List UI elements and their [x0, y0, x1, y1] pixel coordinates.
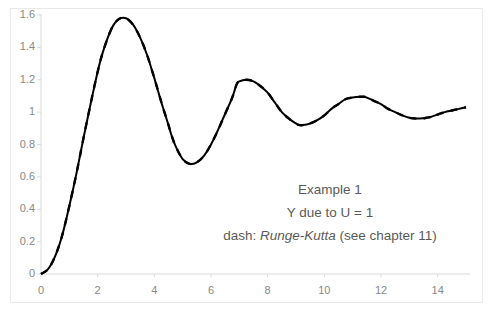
y-axis-tick-label: 1.6: [1, 9, 35, 20]
y-axis-tick-label: 1.2: [1, 74, 35, 85]
x-axis-tick-label: 2: [83, 285, 113, 296]
y-axis-tick-label: 0.2: [1, 236, 35, 247]
y-axis-tick-label: 0.8: [1, 139, 35, 150]
chart-figure: 00.20.40.60.811.21.41.6 02468101214 Exam…: [0, 0, 495, 313]
x-axis-tick-label: 10: [309, 285, 339, 296]
chart-annotation-text: Example 1 Y due to U = 1 dash: Runge-Kut…: [185, 178, 475, 247]
annotation-line-1: Example 1: [185, 178, 475, 201]
x-axis-tick-label: 6: [196, 285, 226, 296]
chart-plot-area: [0, 0, 495, 313]
x-axis-tick-label: 8: [253, 285, 283, 296]
annotation-dash-prefix: dash:: [223, 228, 260, 243]
annotation-line-3: dash: Runge-Kutta (see chapter 11): [185, 224, 475, 247]
y-axis-tick-label: 1: [1, 106, 35, 117]
x-axis-tick-label: 14: [423, 285, 453, 296]
y-axis-tick-label: 0.4: [1, 203, 35, 214]
annotation-line-2: Y due to U = 1: [185, 201, 475, 224]
annotation-chapter-ref: (see chapter 11): [336, 228, 437, 243]
y-axis-tick-label: 0.6: [1, 171, 35, 182]
x-axis-tick-label: 0: [26, 285, 56, 296]
x-axis-tick-label: 4: [139, 285, 169, 296]
y-axis-tick-label: 1.4: [1, 41, 35, 52]
x-axis-tick-label: 12: [366, 285, 396, 296]
y-axis-tick-label: 0: [1, 268, 35, 279]
annotation-method-name: Runge-Kutta: [260, 228, 336, 243]
